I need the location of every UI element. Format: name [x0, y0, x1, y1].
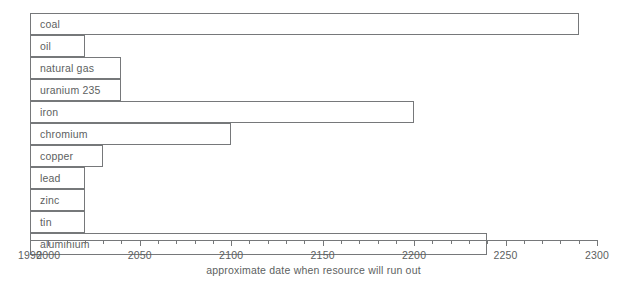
axis-tick-minor: [579, 240, 580, 244]
axis-tick-minor: [286, 240, 287, 244]
axis-tick-label: 2050: [128, 249, 152, 261]
axis-tick-major: [140, 240, 141, 246]
axis-tick-minor: [432, 240, 433, 244]
axis-tick-major: [597, 240, 598, 246]
axis-tick-label: 2100: [219, 249, 243, 261]
axis-tick-major: [48, 240, 49, 246]
axis-tick-minor: [542, 240, 543, 244]
x-axis: approximate date when resource will run …: [0, 0, 626, 291]
axis-tick-minor: [396, 240, 397, 244]
axis-tick-minor: [249, 240, 250, 244]
axis-tick-major: [323, 240, 324, 246]
axis-tick-minor: [451, 240, 452, 244]
axis-tick-minor: [469, 240, 470, 244]
axis-tick-minor: [67, 240, 68, 244]
axis-tick-label: 2150: [311, 249, 335, 261]
x-axis-caption: approximate date when resource will run …: [206, 264, 421, 276]
axis-tick-minor: [341, 240, 342, 244]
axis-tick-minor: [268, 240, 269, 244]
axis-tick-label: 2200: [402, 249, 426, 261]
axis-tick-minor: [304, 240, 305, 244]
axis-tick-minor: [158, 240, 159, 244]
axis-tick-major: [414, 240, 415, 246]
axis-tick-major: [30, 240, 31, 246]
axis-tick-minor: [121, 240, 122, 244]
axis-tick-label: 2000: [36, 249, 60, 261]
axis-tick-minor: [103, 240, 104, 244]
axis-tick-minor: [524, 240, 525, 244]
axis-tick-minor: [195, 240, 196, 244]
axis-tick-major: [506, 240, 507, 246]
axis-tick-label: 2250: [493, 249, 517, 261]
axis-tick-minor: [176, 240, 177, 244]
axis-tick-minor: [85, 240, 86, 244]
axis-tick-minor: [378, 240, 379, 244]
axis-tick-minor: [560, 240, 561, 244]
axis-line: [30, 240, 597, 241]
axis-tick-major: [231, 240, 232, 246]
resource-depletion-chart: coaloilnatural gasuranium 235ironchromiu…: [0, 0, 626, 291]
axis-tick-minor: [487, 240, 488, 244]
axis-tick-minor: [359, 240, 360, 244]
axis-tick-label: 2300: [585, 249, 609, 261]
axis-tick-minor: [213, 240, 214, 244]
